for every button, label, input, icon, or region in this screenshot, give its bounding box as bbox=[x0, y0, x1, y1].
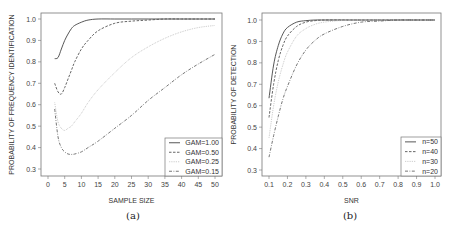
y-tick-label: 0.7 bbox=[247, 81, 257, 88]
legend-label: GAM=1.00 bbox=[185, 139, 219, 146]
y-axis-label: PROBABILITY OF FREQUENCY IDENTIFICATION bbox=[8, 14, 16, 174]
series-line bbox=[55, 19, 215, 94]
x-tick-label: 0 bbox=[46, 181, 50, 188]
series-line bbox=[269, 20, 435, 138]
x-tick-label: 0.4 bbox=[319, 181, 329, 188]
y-tick-label: 1.0 bbox=[247, 17, 257, 24]
y-tick-label: 0.8 bbox=[247, 59, 257, 66]
x-tick-label: 0.9 bbox=[412, 181, 422, 188]
legend-label: GAM=0.25 bbox=[185, 158, 219, 165]
x-tick-label: 30 bbox=[144, 181, 152, 188]
y-tick-label: 1.0 bbox=[26, 16, 36, 23]
series-line bbox=[269, 20, 435, 98]
x-tick-label: 35 bbox=[161, 181, 169, 188]
y-tick-label: 0.9 bbox=[26, 37, 36, 44]
series-line bbox=[55, 19, 215, 59]
y-tick-label: 0.5 bbox=[26, 123, 36, 130]
x-tick-label: 5 bbox=[63, 181, 67, 188]
x-tick-label: 0.5 bbox=[338, 181, 348, 188]
panel-caption: (a) bbox=[126, 210, 140, 221]
y-tick-label: 0.3 bbox=[247, 167, 257, 174]
x-tick-label: 0.8 bbox=[393, 181, 403, 188]
legend-label: n=40 bbox=[422, 148, 438, 155]
x-axis-label: SNR bbox=[344, 197, 359, 204]
panel-caption: (b) bbox=[343, 210, 357, 221]
series-line bbox=[269, 20, 435, 118]
x-tick-label: 0.2 bbox=[283, 181, 293, 188]
x-tick-label: 10 bbox=[78, 181, 86, 188]
x-axis-label: SAMPLE SIZE bbox=[109, 197, 155, 204]
x-tick-label: 25 bbox=[128, 181, 136, 188]
chart-panel-b: 0.30.40.50.60.70.80.91.00.10.20.30.40.50… bbox=[230, 13, 441, 221]
legend-label: n=50 bbox=[422, 138, 438, 145]
x-tick-label: 20 bbox=[111, 181, 119, 188]
x-tick-label: 0.1 bbox=[264, 181, 274, 188]
y-tick-label: 0.7 bbox=[26, 80, 36, 87]
y-tick-label: 0.9 bbox=[247, 38, 257, 45]
y-tick-label: 0.8 bbox=[26, 58, 36, 65]
y-tick-label: 0.3 bbox=[26, 166, 36, 173]
y-axis-label: PROBABILITY OF DETECTION bbox=[230, 45, 237, 145]
x-tick-label: 45 bbox=[194, 181, 202, 188]
x-tick-label: 40 bbox=[178, 181, 186, 188]
legend: GAM=1.00GAM=0.50GAM=0.25GAM=0.15 bbox=[165, 138, 222, 176]
x-tick-label: 15 bbox=[94, 181, 102, 188]
legend-label: n=20 bbox=[422, 168, 438, 175]
x-tick-label: 0.3 bbox=[301, 181, 311, 188]
legend-label: GAM=0.50 bbox=[185, 149, 219, 156]
legend-label: n=30 bbox=[422, 158, 438, 165]
x-tick-label: 0.6 bbox=[356, 181, 366, 188]
y-tick-label: 0.6 bbox=[26, 101, 36, 108]
legend-label: GAM=0.15 bbox=[185, 168, 219, 175]
figure: 0.30.40.50.60.70.80.91.00510152025303540… bbox=[0, 0, 453, 234]
y-tick-label: 0.4 bbox=[26, 144, 36, 151]
x-tick-label: 1.0 bbox=[430, 181, 440, 188]
series-line bbox=[55, 25, 215, 130]
chart-panel-a: 0.30.40.50.60.70.80.91.00510152025303540… bbox=[8, 13, 222, 221]
legend: n=50n=40n=30n=20 bbox=[401, 137, 441, 176]
x-tick-label: 0.7 bbox=[375, 181, 385, 188]
y-tick-label: 0.6 bbox=[247, 102, 257, 109]
y-tick-label: 0.5 bbox=[247, 124, 257, 131]
x-tick-label: 50 bbox=[211, 181, 219, 188]
y-tick-label: 0.4 bbox=[247, 145, 257, 152]
